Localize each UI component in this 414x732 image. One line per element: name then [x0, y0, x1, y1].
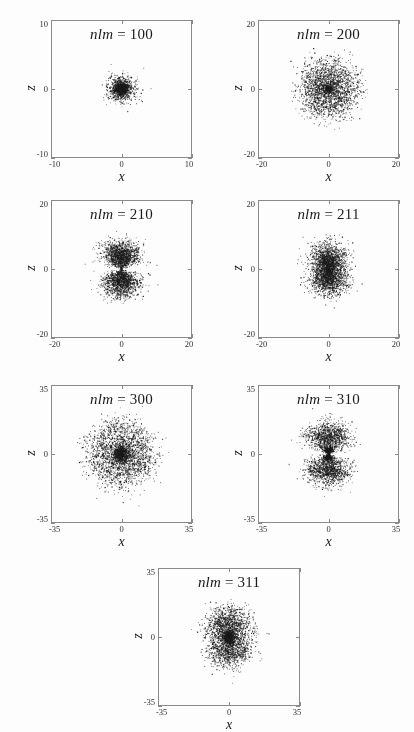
panel-210-ytick-right	[188, 200, 192, 201]
panel-311-xtick-top	[300, 568, 301, 572]
panel-200-title-value: 200	[337, 26, 360, 42]
panel-211-xtick-top	[399, 200, 400, 204]
panel-100-ytick	[51, 89, 55, 90]
panel-311-title-var: nlm	[198, 574, 221, 590]
panel-210-title-value: 210	[130, 206, 153, 222]
panel-200-ytick-right	[395, 20, 399, 21]
panel-200-xtick	[399, 154, 400, 158]
panel-211-xtick-label: 0	[326, 339, 330, 349]
panel-311-xtick-label: -35	[156, 707, 167, 717]
panel-310-xtick	[329, 519, 330, 523]
panel-300-ytick	[51, 385, 55, 386]
panel-211: nlm = 211-20020-20020xz	[258, 200, 399, 338]
panel-211-title-value: 211	[337, 206, 360, 222]
panel-311-ytick-label: 35	[147, 567, 156, 577]
panel-310-xtick-label: -35	[256, 524, 267, 534]
panel-200-xtick-label: -20	[256, 159, 267, 169]
panel-310-xtick-label: 35	[392, 524, 401, 534]
panel-100-xtick-label: 0	[119, 159, 123, 169]
panel-211-xtick-label: -20	[256, 339, 267, 349]
panel-300: nlm = 300-35035-35035xz	[51, 385, 192, 523]
panel-310-xtick-top	[329, 385, 330, 389]
panel-211-title: nlm = 211	[258, 206, 399, 223]
panel-200-ytick	[258, 20, 262, 21]
panel-210-yaxis-label: z	[23, 258, 39, 278]
panel-310-title-eq: =	[324, 391, 333, 407]
panel-200-yaxis-label: z	[230, 78, 246, 98]
panel-300-title: nlm = 300	[51, 391, 192, 408]
panel-210-ytick	[51, 200, 55, 201]
panel-200-xaxis-label: x	[325, 169, 331, 185]
panel-210-ytick-label: -20	[37, 329, 48, 339]
panel-200-xtick	[329, 154, 330, 158]
panel-300-xtick-top	[192, 385, 193, 389]
panel-311-title-eq: =	[225, 574, 234, 590]
panel-200-xtick-label: 0	[326, 159, 330, 169]
panel-311-yaxis-label: z	[130, 626, 146, 646]
panel-100-xtick-top	[192, 20, 193, 24]
panel-311-ytick-label: 0	[151, 632, 155, 642]
panel-100-xtick-label: -10	[49, 159, 60, 169]
panel-211-xtick	[399, 334, 400, 338]
panel-210-ytick-label: 20	[40, 199, 49, 209]
panel-300-xtick-label: 35	[185, 524, 194, 534]
panel-310-yaxis-label: z	[230, 443, 246, 463]
panel-310-xaxis-label: x	[325, 534, 331, 550]
panel-100-ytick-label: -10	[37, 149, 48, 159]
panel-200-ytick	[258, 89, 262, 90]
panel-210-title-eq: =	[117, 206, 126, 222]
panel-200-xtick-top	[329, 20, 330, 24]
panel-100-ytick	[51, 20, 55, 21]
panel-211-ytick	[258, 200, 262, 201]
panel-311-ytick-label: -35	[144, 697, 155, 707]
panel-300-xtick	[192, 519, 193, 523]
panel-310-ytick-right	[395, 454, 399, 455]
panel-300-ytick-label: 35	[40, 384, 49, 394]
panel-300-title-eq: =	[117, 391, 126, 407]
panel-310-xtick	[399, 519, 400, 523]
panel-100-xtick-top	[122, 20, 123, 24]
panel-211-ytick-label: 0	[251, 264, 255, 274]
panel-311-xtick-label: 0	[227, 707, 231, 717]
panel-310-title: nlm = 310	[258, 391, 399, 408]
panel-200: nlm = 200-20020-20020xz	[258, 20, 399, 158]
panel-311-xtick-label: 35	[293, 707, 302, 717]
panel-300-title-value: 300	[130, 391, 153, 407]
panel-300-xtick-top	[122, 385, 123, 389]
panel-210: nlm = 210-20020-20020xz	[51, 200, 192, 338]
panel-100-xaxis-label: x	[118, 169, 124, 185]
panel-300-ytick-right	[188, 385, 192, 386]
panel-300-ytick	[51, 454, 55, 455]
panel-100-xtick	[122, 154, 123, 158]
panel-210-title-var: nlm	[90, 206, 113, 222]
panel-100-title: nlm = 100	[51, 26, 192, 43]
panel-200-xtick-label: 20	[392, 159, 401, 169]
panel-310-title-value: 310	[337, 391, 360, 407]
panel-100: nlm = 100-10010-10010xz	[51, 20, 192, 158]
panel-310-title-var: nlm	[297, 391, 320, 407]
panel-311-xtick	[300, 702, 301, 706]
panel-210-xtick-top	[122, 200, 123, 204]
panel-310-ytick-label: -35	[244, 514, 255, 524]
panel-210-ytick	[51, 269, 55, 270]
panel-200-ytick-right	[395, 89, 399, 90]
panel-210-title: nlm = 210	[51, 206, 192, 223]
panel-311: nlm = 311-35035-35035xz	[158, 568, 300, 706]
panel-210-xtick-label: 0	[119, 339, 123, 349]
panel-300-xtick	[122, 519, 123, 523]
panel-300-title-var: nlm	[90, 391, 113, 407]
panel-210-xtick	[192, 334, 193, 338]
panel-211-ytick-right	[395, 269, 399, 270]
panel-310-xtick-label: 0	[326, 524, 330, 534]
panel-211-ytick-right	[395, 200, 399, 201]
panel-100-xtick	[192, 154, 193, 158]
panel-311-ytick-right	[296, 637, 300, 638]
panel-100-ytick-right	[188, 20, 192, 21]
hydrogen-orbital-figure: nlm = 100-10010-10010xznlm = 200-20020-2…	[0, 0, 414, 732]
panel-211-ytick-label: 20	[247, 199, 256, 209]
panel-300-ytick-right	[188, 454, 192, 455]
panel-311-title-value: 311	[238, 574, 261, 590]
panel-211-title-var: nlm	[297, 206, 320, 222]
panel-310-ytick-label: 0	[251, 449, 255, 459]
panel-211-ytick-label: -20	[244, 329, 255, 339]
